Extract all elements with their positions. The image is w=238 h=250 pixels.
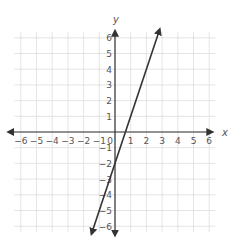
x-tick-label: 4 xyxy=(175,136,181,146)
coordinate-plane: −6−5−4−3−2−10123456−6−5−4−3−2−1123456 x … xyxy=(0,0,238,250)
x-tick-label: −2 xyxy=(77,136,90,146)
y-tick-label: −6 xyxy=(99,222,113,232)
x-tick-label: 3 xyxy=(159,136,165,146)
x-tick-label: 5 xyxy=(191,136,197,146)
y-tick-label: 2 xyxy=(106,96,112,106)
y-tick-label: 5 xyxy=(106,49,112,59)
y-tick-label: −2 xyxy=(99,159,112,169)
y-tick-label: 1 xyxy=(106,112,112,122)
axes xyxy=(8,31,212,236)
y-tick-label: −1 xyxy=(99,143,112,153)
y-tick-label: 3 xyxy=(106,80,112,90)
y-tick-label: 4 xyxy=(106,65,112,75)
x-tick-label: −6 xyxy=(14,136,28,146)
x-tick-label: 6 xyxy=(206,136,212,146)
x-tick-label: 2 xyxy=(144,136,150,146)
x-axis-label: x xyxy=(221,127,228,138)
x-tick-label: 1 xyxy=(128,136,134,146)
y-axis-label: y xyxy=(112,14,120,25)
x-tick-label: −4 xyxy=(46,136,60,146)
x-tick-label: −3 xyxy=(61,136,74,146)
y-tick-label: 6 xyxy=(106,33,112,43)
x-tick-label: −5 xyxy=(30,136,43,146)
